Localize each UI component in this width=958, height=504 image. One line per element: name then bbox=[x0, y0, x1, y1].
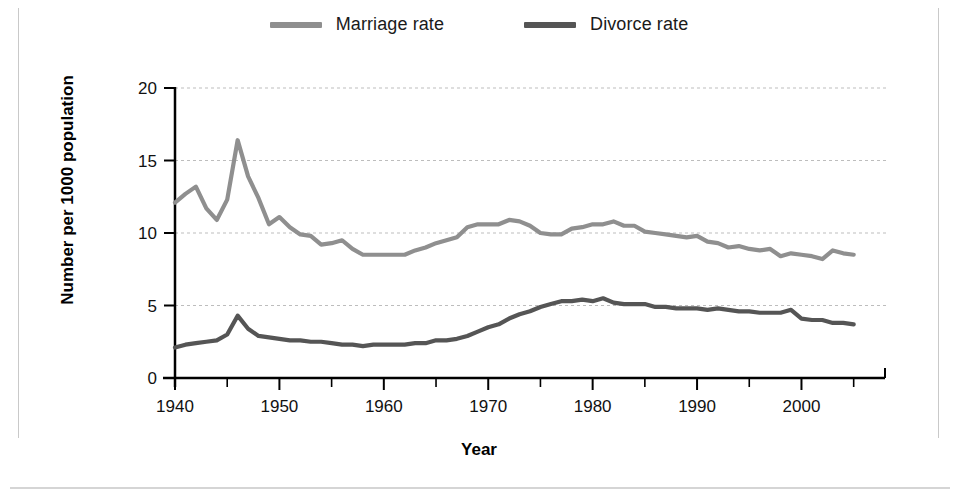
x-axis-tick-label: 1940 bbox=[156, 397, 194, 416]
x-axis-tick-label: 2000 bbox=[783, 397, 821, 416]
x-axis-tick-label: 1980 bbox=[574, 397, 612, 416]
x-axis-tick-label: 1960 bbox=[365, 397, 403, 416]
plot-area: 051015201940195019601970198019902000 Num… bbox=[0, 0, 958, 504]
y-axis-tick-label: 0 bbox=[148, 369, 157, 388]
y-axis-tick-label: 10 bbox=[138, 224, 157, 243]
y-axis-tick-label: 20 bbox=[138, 79, 157, 98]
x-axis-tick-label: 1950 bbox=[260, 397, 298, 416]
x-axis-title: Year bbox=[0, 440, 958, 460]
series-line-marriage-rate bbox=[175, 140, 854, 259]
chart-figure: Marriage rate Divorce rate 0510152019401… bbox=[0, 0, 958, 504]
chart-svg: 051015201940195019601970198019902000 bbox=[0, 0, 958, 504]
y-axis-tick-label: 5 bbox=[148, 297, 157, 316]
x-axis-tick-label: 1970 bbox=[469, 397, 507, 416]
y-axis-tick-label: 15 bbox=[138, 152, 157, 171]
x-axis-tick-label: 1990 bbox=[678, 397, 716, 416]
y-axis-title: Number per 1000 population bbox=[58, 60, 78, 320]
